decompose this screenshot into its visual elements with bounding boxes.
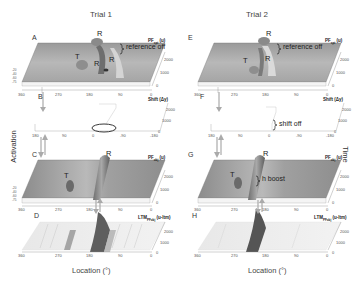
- peak-r-e-mid: R: [265, 54, 270, 63]
- time-tick-b-1000: 1000: [162, 118, 171, 123]
- panel-f-plot: [211, 103, 344, 131]
- tick-e-270: 270: [231, 92, 238, 97]
- peak-t-c: T: [64, 171, 69, 180]
- tick-a-90: 90: [118, 92, 122, 97]
- tick-g-360: 360: [194, 207, 201, 212]
- time-tick-g-0: 0: [332, 200, 334, 205]
- time-tick-f-2000: 2000: [342, 107, 351, 112]
- tick-g-270: 270: [231, 207, 238, 212]
- tick-g-180: 180: [262, 207, 269, 212]
- panel-b-plot: [35, 103, 168, 132]
- panel-letter-g: G: [188, 151, 193, 158]
- tick-c-90: 90: [118, 207, 122, 212]
- time-tick-c-2000: 2000: [164, 174, 173, 179]
- time-tick-b-0: 0: [158, 129, 160, 134]
- time-tick-f-0: 0: [334, 129, 336, 134]
- peak-r-a-right: R: [109, 55, 114, 64]
- peak-r-e-top: R: [266, 29, 271, 38]
- zlabel-h: LTMPFobj (u-ltm): [314, 215, 347, 222]
- tick-h-360: 360: [194, 253, 201, 258]
- tick-e-180: 180: [262, 92, 269, 97]
- zlabel-f: Shift (Δy): [323, 97, 343, 102]
- tick-a-360: 360: [18, 92, 25, 97]
- time-tick-b-2000: 2000: [166, 107, 175, 112]
- tick-h-270: 270: [231, 253, 238, 258]
- tick-d-180: 180: [86, 253, 93, 258]
- panel-letter-d: D: [34, 212, 39, 219]
- column-title-trial-1: Trial 1: [90, 10, 112, 19]
- tick-b-90: 90: [62, 133, 66, 138]
- tick-f-90: 90: [238, 133, 242, 138]
- column-title-trial-2: Trial 2: [246, 10, 268, 19]
- tick-f-180: 180: [208, 133, 215, 138]
- peak-r-g: R: [263, 149, 268, 158]
- tick-f-m180: -180: [326, 133, 334, 138]
- time-tick-a-2000: 2000: [164, 57, 173, 62]
- time-tick-e-0: 0: [332, 83, 334, 88]
- time-tick-g-2000: 2000: [340, 174, 349, 179]
- time-tick-d-2000: 2000: [164, 229, 173, 234]
- panel-letter-e: E: [188, 34, 193, 41]
- tick-a-0: 0: [150, 92, 152, 97]
- tick-e-90: 90: [294, 92, 298, 97]
- tick-e-360: 360: [194, 92, 201, 97]
- time-tick-f-1000: 1000: [338, 118, 347, 123]
- tick-b-180: 180: [32, 133, 39, 138]
- activation-ticks-a: -20-40-60-75: [12, 68, 16, 84]
- zlabel-d: LTMPFobj (u-ltm): [138, 215, 171, 222]
- zlabel-c: PFobj (u): [148, 155, 165, 162]
- panel-letter-h: H: [192, 212, 197, 219]
- time-tick-h-2000: 2000: [340, 229, 349, 234]
- tick-a-180: 180: [86, 92, 93, 97]
- tick-d-270: 270: [55, 253, 62, 258]
- time-tick-h-1000: 1000: [336, 240, 345, 245]
- peak-t-e: T: [243, 56, 248, 65]
- tick-b-m90: -90: [120, 133, 126, 138]
- time-tick-c-1000: 1000: [160, 187, 169, 192]
- tick-e-0: 0: [326, 92, 328, 97]
- tick-f-m90: -90: [296, 133, 302, 138]
- x-axis-label-trial-1: Location (°): [72, 266, 110, 275]
- time-tick-a-1000: 1000: [160, 70, 169, 75]
- tick-f-0: 0: [268, 133, 270, 138]
- tick-c-270: 270: [55, 207, 62, 212]
- tick-h-90: 90: [294, 253, 298, 258]
- time-tick-d-1000: 1000: [160, 240, 169, 245]
- annotation-reference-off-e: reference off: [283, 43, 322, 50]
- activation-axis-label: Activation: [9, 122, 18, 172]
- annotation-reference-off-a: reference off: [126, 43, 165, 50]
- x-axis-label-trial-2: Location (°): [248, 266, 286, 275]
- time-tick-h-0: 0: [332, 250, 334, 255]
- tick-c-360: 360: [18, 207, 25, 212]
- time-tick-d-0: 0: [156, 250, 158, 255]
- time-tick-g-1000: 1000: [336, 187, 345, 192]
- tick-g-0: 0: [326, 207, 328, 212]
- tick-b-0: 0: [92, 133, 94, 138]
- panel-c-surface: [22, 155, 165, 203]
- annotation-h-boost-g: h boost: [262, 175, 285, 182]
- tick-c-180: 180: [86, 207, 93, 212]
- tick-h-0: 0: [326, 253, 328, 258]
- zlabel-g: PFobj (u): [325, 155, 342, 162]
- panel-letter-a: A: [32, 34, 37, 41]
- tick-d-0: 0: [150, 253, 152, 258]
- zlabel-e: PFspt (u): [325, 38, 342, 45]
- panel-letter-c: C: [32, 151, 37, 158]
- time-tick-a-0: 0: [156, 83, 158, 88]
- panel-letter-b: B: [38, 93, 43, 100]
- tick-b-m180: -180: [150, 133, 158, 138]
- tick-h-180: 180: [262, 253, 269, 258]
- time-tick-e-2000: 2000: [340, 57, 349, 62]
- time-tick-c-0: 0: [156, 200, 158, 205]
- annotation-shift-off-f: shift off: [279, 120, 301, 127]
- peak-t-g: T: [230, 170, 235, 179]
- peak-t-a: T: [75, 52, 80, 61]
- peak-r-a-mid: R: [94, 59, 99, 68]
- peak-r-a-top: R: [97, 29, 102, 38]
- peak-r-c: R: [106, 149, 111, 158]
- tick-a-270: 270: [55, 92, 62, 97]
- tick-c-0: 0: [150, 207, 152, 212]
- tick-d-90: 90: [118, 253, 122, 258]
- time-tick-e-1000: 1000: [336, 70, 345, 75]
- zlabel-b: Shift (Δy): [148, 97, 168, 102]
